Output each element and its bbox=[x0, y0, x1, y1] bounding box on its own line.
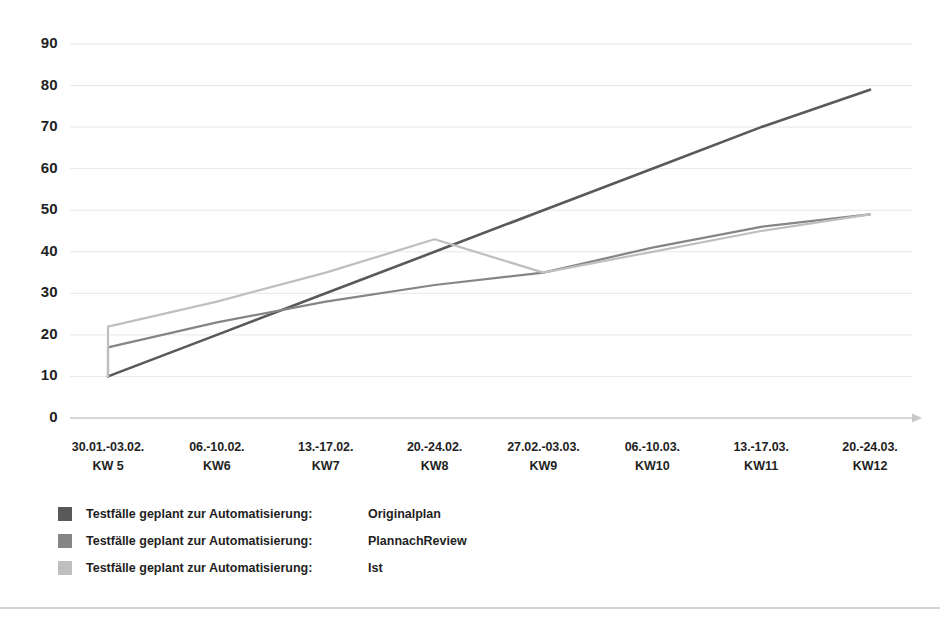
bottom-divider bbox=[0, 607, 940, 609]
chart-container: 9080706050403020100 30.01.-03.02.KW 506.… bbox=[0, 0, 940, 623]
y-tick-label: 70 bbox=[18, 117, 58, 134]
y-tick-label: 0 bbox=[18, 408, 58, 425]
y-tick-label: 40 bbox=[18, 242, 58, 259]
chart-legend: Testfälle geplant zur Automatisierung: O… bbox=[58, 500, 578, 581]
legend-item-plannachreview[interactable]: Testfälle geplant zur Automatisierung: P… bbox=[58, 527, 578, 554]
legend-swatch-ist bbox=[58, 561, 72, 575]
y-tick-label: 30 bbox=[18, 283, 58, 300]
x-tick-date-range: 20.-24.03. bbox=[805, 438, 935, 457]
series-line-ist bbox=[108, 214, 870, 376]
legend-label-plannachreview: Testfälle geplant zur Automatisierung: bbox=[86, 534, 368, 548]
legend-label-originalplan: Testfälle geplant zur Automatisierung: bbox=[86, 507, 368, 521]
series-line-plannachreview bbox=[108, 214, 870, 376]
legend-series-originalplan: Originalplan bbox=[368, 507, 441, 521]
legend-item-ist[interactable]: Testfälle geplant zur Automatisierung: I… bbox=[58, 554, 578, 581]
legend-label-ist: Testfälle geplant zur Automatisierung: bbox=[86, 561, 368, 575]
legend-series-ist: Ist bbox=[368, 561, 383, 575]
y-tick-label: 10 bbox=[18, 366, 58, 383]
data-series-layer bbox=[108, 90, 870, 377]
y-tick-label: 20 bbox=[18, 325, 58, 342]
y-tick-label: 80 bbox=[18, 76, 58, 93]
x-tick-week: KW12 bbox=[805, 457, 935, 476]
x-axis-line bbox=[70, 414, 922, 423]
legend-swatch-plannachreview bbox=[58, 534, 72, 548]
legend-swatch-originalplan bbox=[58, 507, 72, 521]
x-tick-label: 20.-24.03.KW12 bbox=[805, 438, 935, 477]
y-tick-label: 60 bbox=[18, 159, 58, 176]
legend-series-plannachreview: PlannachReview bbox=[368, 534, 467, 548]
y-tick-label: 90 bbox=[18, 34, 58, 51]
legend-item-originalplan[interactable]: Testfälle geplant zur Automatisierung: O… bbox=[58, 500, 578, 527]
y-tick-label: 50 bbox=[18, 200, 58, 217]
